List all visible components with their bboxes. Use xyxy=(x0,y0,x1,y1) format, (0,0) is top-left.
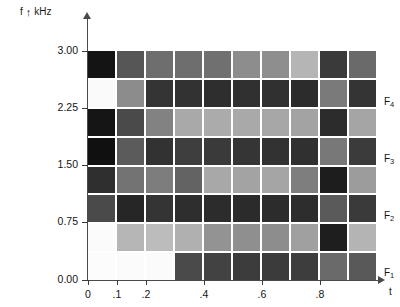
heatmap-cell xyxy=(117,138,144,165)
y-axis-unit: kHz xyxy=(34,6,51,17)
heatmap-cell xyxy=(146,138,173,165)
heatmap-cell xyxy=(117,80,144,107)
heatmap-cell xyxy=(88,224,115,251)
heatmap-cell xyxy=(175,195,202,222)
formant-1-label: F1 xyxy=(384,267,394,278)
x-tick-label: .1 xyxy=(113,288,122,300)
heatmap-cell xyxy=(204,138,231,165)
heatmap-cell xyxy=(146,109,173,136)
heatmap-cell xyxy=(88,195,115,222)
heatmap-cell xyxy=(320,138,347,165)
heatmap-cell xyxy=(233,253,260,280)
heatmap-cell xyxy=(291,51,318,78)
heatmap-cell xyxy=(117,109,144,136)
heatmap-cell xyxy=(262,253,289,280)
heatmap-cell xyxy=(291,195,318,222)
heatmap-cell xyxy=(146,195,173,222)
heatmap-cell xyxy=(146,253,173,280)
x-tick-label: .6 xyxy=(258,288,267,300)
heatmap-cell xyxy=(175,167,202,194)
heatmap-cell xyxy=(349,109,376,136)
heatmap-cell xyxy=(117,224,144,251)
formant-2-label: F2 xyxy=(384,210,394,221)
heatmap-cell xyxy=(262,138,289,165)
heatmap-cell xyxy=(88,109,115,136)
heatmap-cell xyxy=(117,51,144,78)
x-tick-label: 0 xyxy=(85,288,91,300)
heatmap-cell xyxy=(291,224,318,251)
heatmap-cell xyxy=(320,51,347,78)
x-tick-label: .8 xyxy=(316,288,325,300)
heatmap-cell xyxy=(88,138,115,165)
spectrogram-figure: f ↑ kHz t 3.002.251.500.750.00 0.1.2.4.6… xyxy=(0,0,400,307)
heatmap-cell xyxy=(233,109,260,136)
heatmap-cell xyxy=(291,167,318,194)
heatmap-cell xyxy=(146,80,173,107)
heatmap-cell xyxy=(349,253,376,280)
heatmap-cell xyxy=(262,51,289,78)
y-tick-label: 3.00 xyxy=(58,44,78,56)
formant-4-label: F4 xyxy=(384,96,394,107)
heatmap-cell xyxy=(349,224,376,251)
heatmap-cell xyxy=(175,109,202,136)
x-tick-mark xyxy=(320,280,321,285)
heatmap-cell xyxy=(204,51,231,78)
heatmap-cell xyxy=(349,51,376,78)
heatmap-cell xyxy=(175,138,202,165)
heatmap-cell xyxy=(320,253,347,280)
x-axis-line xyxy=(87,280,380,281)
heatmap-cell xyxy=(291,253,318,280)
heatmap-cell xyxy=(262,167,289,194)
x-tick-mark xyxy=(204,280,205,285)
heatmap-cell xyxy=(88,253,115,280)
heatmap-cell xyxy=(291,109,318,136)
heatmap-cell xyxy=(117,167,144,194)
up-arrow-icon: ↑ xyxy=(26,7,32,17)
heatmap-cell xyxy=(262,195,289,222)
heatmap-cell xyxy=(262,80,289,107)
heatmap-cell xyxy=(204,253,231,280)
heatmap-cell xyxy=(320,80,347,107)
heatmap-cell xyxy=(146,167,173,194)
heatmap-cell xyxy=(88,80,115,107)
heatmap-cell xyxy=(117,195,144,222)
heatmap-cell xyxy=(88,51,115,78)
x-axis-symbol: t xyxy=(389,286,392,297)
heatmap-cell xyxy=(146,224,173,251)
heatmap-cell xyxy=(204,109,231,136)
heatmap-cell xyxy=(175,51,202,78)
heatmap-cell xyxy=(146,51,173,78)
heatmap-cell xyxy=(291,138,318,165)
heatmap-cell xyxy=(117,253,144,280)
heatmap-cell xyxy=(88,167,115,194)
heatmap-cell xyxy=(175,80,202,107)
heatmap-grid xyxy=(88,51,376,280)
heatmap-cell xyxy=(320,109,347,136)
heatmap-cell xyxy=(233,167,260,194)
x-tick-mark xyxy=(146,280,147,285)
heatmap-cell xyxy=(349,167,376,194)
x-tick-mark xyxy=(117,280,118,285)
heatmap-cell xyxy=(349,80,376,107)
y-tick-label: 0.00 xyxy=(58,273,78,285)
heatmap-cell xyxy=(233,80,260,107)
heatmap-cell xyxy=(175,253,202,280)
heatmap-cell xyxy=(262,109,289,136)
heatmap-cell xyxy=(204,80,231,107)
heatmap-cell xyxy=(233,51,260,78)
heatmap-cell xyxy=(291,80,318,107)
heatmap-cell xyxy=(262,224,289,251)
y-axis-arrowhead-icon xyxy=(83,12,91,19)
heatmap-cell xyxy=(204,224,231,251)
formant-3-label: F3 xyxy=(384,153,394,164)
heatmap-cell xyxy=(320,224,347,251)
y-axis-symbol: f xyxy=(20,6,23,17)
heatmap-cell xyxy=(320,167,347,194)
y-tick-label: 0.75 xyxy=(58,215,78,227)
x-tick-mark xyxy=(262,280,263,285)
y-tick-label: 2.25 xyxy=(58,101,78,113)
x-tick-label: .2 xyxy=(142,288,151,300)
heatmap-cell xyxy=(233,195,260,222)
x-tick-mark xyxy=(88,280,89,285)
heatmap-cell xyxy=(349,195,376,222)
